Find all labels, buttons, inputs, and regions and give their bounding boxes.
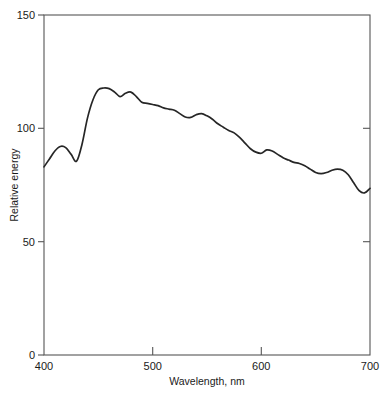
x-axis-title: Wavelength, nm xyxy=(169,375,245,387)
chart-background xyxy=(0,0,386,394)
chart-container: 150 100 50 0 400 500 600 700 Wavelength,… xyxy=(0,0,386,394)
x-tick-label-700: 700 xyxy=(361,360,379,372)
spectral-power-distribution-chart: 150 100 50 0 400 500 600 700 Wavelength,… xyxy=(0,0,386,394)
y-tick-label-150: 150 xyxy=(17,9,35,21)
x-tick-label-500: 500 xyxy=(144,360,162,372)
y-tick-label-100: 100 xyxy=(17,122,35,134)
y-tick-label-50: 50 xyxy=(23,236,35,248)
x-tick-label-600: 600 xyxy=(252,360,270,372)
x-tick-label-400: 400 xyxy=(35,360,53,372)
y-axis-title: Relative energy xyxy=(8,148,20,222)
